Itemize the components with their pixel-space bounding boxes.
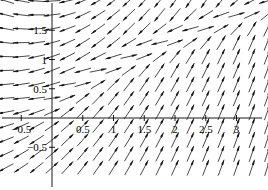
field-arrow: [93, 147, 103, 161]
field-arrow: [264, 49, 268, 65]
arrow-head: [239, 13, 245, 15]
arrow-head: [107, 44, 112, 48]
arrow-head: [0, 70, 3, 72]
x-tick-label: 3: [234, 124, 240, 135]
field-arrow: [187, 146, 194, 162]
field-arrow: [136, 40, 152, 46]
field-arrow: [61, 134, 73, 146]
field-arrow: [140, 160, 148, 175]
arrow-head: [170, 3, 174, 8]
field-arrow: [92, 92, 104, 104]
field-arrow: [264, 21, 268, 36]
field-arrow: [170, 50, 181, 63]
arrow-head: [167, 29, 172, 32]
arrow-head: [146, 64, 150, 69]
arrow-head: [216, 3, 220, 8]
field-arrow: [28, 0, 45, 2]
field-arrow: [264, 90, 268, 106]
field-arrow: [218, 160, 224, 176]
field-arrow: [156, 160, 163, 175]
arrow-head: [176, 146, 179, 151]
field-arrow: [187, 132, 194, 148]
arrow-head: [191, 91, 194, 96]
arrow-shaft: [265, 118, 268, 134]
field-arrow: [13, 69, 30, 72]
field-arrow: [203, 160, 209, 176]
arrow-head: [253, 22, 257, 27]
field-arrow: [75, 11, 90, 18]
field-arrow: [234, 146, 240, 162]
y-tick-label: 1: [6, 54, 47, 65]
field-arrow: [249, 49, 255, 65]
field-arrow: [28, 41, 45, 44]
arrow-head: [84, 161, 88, 166]
field-arrow: [171, 77, 179, 92]
field-arrow: [136, 53, 152, 59]
field-arrow: [13, 13, 30, 16]
arrow-head: [154, 17, 158, 22]
arrow-head: [100, 106, 104, 111]
field-arrow: [138, 0, 150, 7]
field-arrow: [123, 9, 135, 21]
arrow-head: [145, 146, 148, 151]
field-arrow: [91, 53, 106, 61]
field-arrow: [202, 49, 210, 64]
field-arrow: [91, 80, 106, 89]
field-arrow: [187, 118, 194, 133]
arrow-head: [138, 3, 142, 8]
arrow-head: [114, 161, 118, 166]
y-tick-label: −0.5: [6, 142, 47, 153]
field-arrow: [61, 107, 75, 117]
arrow-head: [85, 93, 90, 97]
field-arrow: [76, 38, 90, 47]
field-arrow: [156, 119, 164, 134]
arrow-head: [130, 160, 133, 165]
field-arrow: [28, 14, 45, 16]
arrow-head: [28, 0, 34, 2]
field-arrow: [249, 76, 255, 92]
arrow-head: [28, 70, 34, 72]
arrow-head: [267, 146, 268, 152]
arrow-head: [176, 105, 179, 110]
y-tick-label: 1.5: [6, 25, 47, 36]
field-arrow: [247, 22, 256, 36]
field-arrow: [59, 0, 76, 3]
field-arrow: [154, 8, 165, 21]
arrow-head: [145, 77, 149, 82]
field-arrow: [170, 8, 181, 21]
field-arrow: [182, 27, 198, 32]
field-arrow: [233, 35, 240, 50]
field-arrow: [259, 0, 268, 4]
field-arrow: [93, 119, 104, 132]
field-arrow: [124, 78, 135, 91]
arrow-head: [160, 132, 163, 137]
arrow-head: [0, 13, 3, 15]
arrow-head: [191, 63, 194, 68]
arrow-head: [0, 168, 4, 171]
arrow-head: [160, 146, 163, 151]
arrow-head: [91, 57, 96, 60]
field-arrow: [230, 0, 243, 6]
arrow-shaft: [261, 9, 268, 20]
arrow-head: [54, 135, 59, 139]
arrow-head: [252, 160, 255, 166]
field-arrow: [233, 49, 240, 65]
arrow-head: [221, 132, 224, 137]
arrow-head: [160, 119, 163, 124]
arrow-head: [130, 119, 134, 124]
field-arrow: [218, 118, 224, 134]
field-arrow: [0, 70, 14, 72]
field-arrow: [171, 91, 179, 106]
arrow-head: [237, 104, 240, 109]
arrow-head: [176, 63, 179, 68]
arrow-head: [60, 43, 65, 46]
arrow-head: [252, 35, 255, 40]
field-arrow: [91, 38, 105, 48]
field-arrow: [125, 160, 133, 175]
arrow-head: [0, 112, 3, 114]
arrow-shaft: [264, 49, 268, 65]
arrow-head: [221, 146, 224, 151]
field-arrow: [30, 162, 43, 173]
y-tick-label: 0.5: [6, 83, 47, 94]
arrow-head: [99, 133, 103, 138]
